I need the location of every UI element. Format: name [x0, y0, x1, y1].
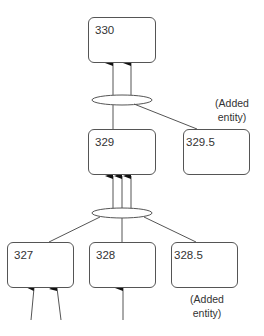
link-327-to-ellipse [49, 217, 100, 242]
note-line: (Added [183, 292, 231, 306]
node-328-5: 328.5 [171, 242, 238, 288]
link-328-5-to-ellipse [144, 217, 196, 242]
node-label: 329 [95, 136, 114, 148]
aggregation-ellipse-top [92, 95, 152, 105]
note-line: entity) [183, 306, 231, 320]
node-label: 328.5 [174, 249, 203, 261]
aggregation-ellipse-bottom [92, 208, 152, 218]
node-329-5: 329.5 [183, 129, 250, 175]
arrow-into-327-b [57, 288, 61, 320]
node-330: 330 [88, 17, 156, 63]
node-label: 330 [95, 24, 114, 36]
link-329-5-to-ellipse [134, 104, 197, 129]
note-line: entity) [208, 110, 256, 124]
node-327: 327 [7, 242, 74, 288]
added-entity-note-lower: (Added entity) [183, 292, 231, 320]
node-329: 329 [88, 129, 156, 175]
node-label: 328 [96, 249, 115, 261]
arrow-into-327-a [31, 288, 34, 320]
node-label: 329.5 [186, 136, 215, 148]
note-line: (Added [208, 96, 256, 110]
node-328: 328 [89, 242, 156, 288]
added-entity-note-upper: (Added entity) [208, 96, 256, 124]
node-label: 327 [14, 249, 33, 261]
